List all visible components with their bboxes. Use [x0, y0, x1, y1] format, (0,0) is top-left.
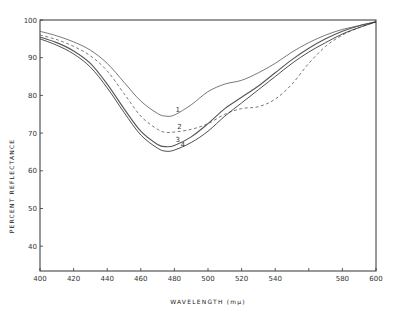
curve-1	[40, 22, 376, 117]
curve-label-1: 1	[176, 106, 180, 114]
x-axis-title: WAVELENGTH (mμ)	[170, 298, 246, 306]
y-tick-label: 100	[24, 17, 37, 25]
x-tick-label: 600	[369, 275, 382, 283]
x-tick-label: 480	[168, 275, 181, 283]
curve-label-4: 4	[181, 141, 186, 149]
x-tick-label: 520	[235, 275, 248, 283]
y-tick-label: 80	[28, 92, 37, 100]
curve-4	[40, 22, 376, 151]
y-tick-label: 40	[28, 243, 37, 251]
x-tick-label: 420	[67, 275, 80, 283]
x-axis-ticks: 400420440460480500520540580600	[33, 268, 382, 283]
curve-3	[40, 22, 376, 147]
x-tick-label: 500	[201, 275, 214, 283]
y-axis-title: PERCENT REFLECTANCE	[8, 139, 15, 234]
y-tick-label: 90	[28, 54, 37, 62]
plot-frame	[40, 20, 376, 271]
x-tick-label: 540	[269, 275, 282, 283]
curve-labels: 1234	[176, 106, 186, 149]
curve-label-2: 2	[177, 123, 181, 131]
x-tick-label: 400	[33, 275, 46, 283]
curve-label-3: 3	[176, 136, 180, 144]
x-tick-label: 460	[134, 275, 147, 283]
y-tick-label: 70	[28, 130, 37, 138]
y-tick-label: 60	[28, 167, 37, 175]
x-tick-label: 440	[101, 275, 114, 283]
reflectance-curves	[40, 22, 376, 151]
reflectance-chart: 400420440460480500520540580600 405060708…	[0, 0, 396, 322]
x-tick-label: 580	[336, 275, 349, 283]
y-tick-label: 50	[28, 205, 37, 213]
